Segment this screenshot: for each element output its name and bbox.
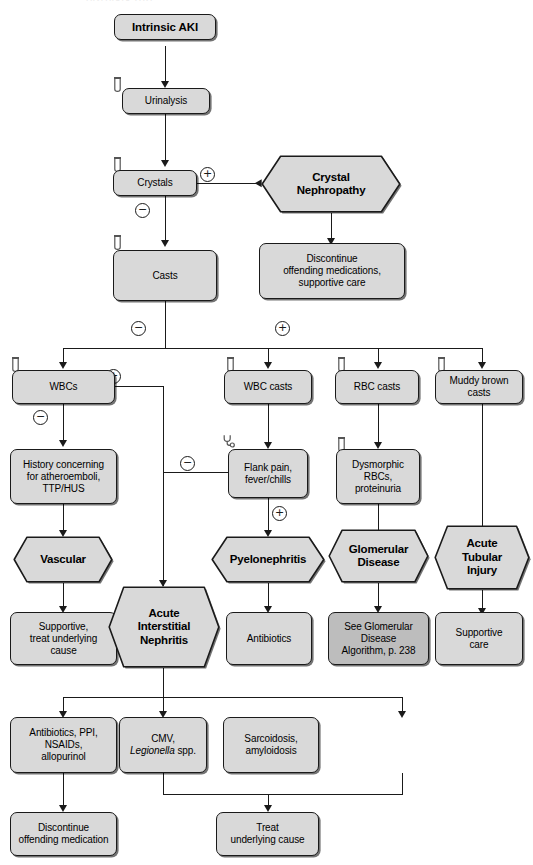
node-glomerular-disease[interactable]: Glomerular Disease (328, 529, 429, 583)
node-vascular[interactable]: Vascular (13, 536, 113, 583)
clipped-header-artifact: Intrinsic AKI (86, 0, 154, 3)
arrowhead-wbcs (59, 362, 67, 369)
edge-ain-down (163, 668, 164, 698)
node-supportive-care[interactable]: Supportive care (435, 612, 523, 665)
ain-infection-suffix: spp. (175, 745, 196, 756)
node-discontinue-offending-medication[interactable]: Discontinue offending medication (10, 812, 117, 856)
stethoscope-icon (222, 434, 236, 450)
node-rbc-casts[interactable]: RBC casts (335, 370, 419, 404)
arrowhead-muddy-brown-casts (478, 362, 486, 369)
sign-crystals-positive: + (200, 167, 215, 182)
node-pyelonephritis[interactable]: Pyelonephritis (211, 536, 325, 583)
node-acute-interstitial-nephritis[interactable]: Acute Interstitial Nephritis (108, 586, 220, 668)
arrowhead-crystals (161, 160, 169, 167)
edge-casts-bus (63, 348, 483, 349)
edge-urinalysis-to-crystals (165, 114, 166, 164)
sign-casts-positive: + (275, 321, 290, 336)
flowchart-canvas: Intrinsic AKI + − − + + − − + (0, 0, 533, 865)
arrowhead-casts (161, 240, 169, 247)
sign-wbcs-negative: − (33, 410, 48, 425)
node-see-glomerular-algorithm[interactable]: See Glomerular Disease Algorithm, p. 238 (328, 612, 429, 665)
edge-flank-negative (163, 472, 232, 473)
sign-flank-positive: + (272, 506, 287, 521)
edge-ain-bus (63, 697, 403, 698)
node-ain-drugs[interactable]: Antibiotics, PPI, NSAIDs, allopurinol (10, 717, 117, 773)
arrowhead-history (59, 440, 67, 447)
arrowhead-flank-pain (264, 442, 272, 449)
node-wbcs[interactable]: WBCs (12, 370, 115, 404)
test-tube-icon (112, 234, 123, 251)
edge-wbcs-to-history (63, 404, 64, 444)
edge-crystals-to-casts (165, 196, 166, 244)
arrowhead-urinalysis (161, 81, 169, 88)
node-supportive-treat-cause[interactable]: Supportive, treat underlying cause (10, 612, 117, 665)
edge-muddy-to-ati (482, 404, 483, 534)
node-flank-pain[interactable]: Flank pain, fever/chills (228, 449, 308, 498)
edge-systemic-down (402, 773, 403, 795)
node-crystals[interactable]: Crystals (113, 170, 197, 196)
node-muddy-brown-casts[interactable]: Muddy brown casts (435, 370, 523, 404)
edge-flank-to-pyelo (268, 498, 269, 534)
edge-wbcs-positive-down (163, 386, 164, 586)
edge-drugs-to-discontinue (63, 773, 64, 809)
node-ain-infectious[interactable]: CMV, Legionella spp. (119, 717, 207, 773)
arrowhead-rbc-casts (374, 362, 382, 369)
test-tube-icon (112, 76, 123, 93)
node-intrinsic-aki[interactable]: Intrinsic AKI (114, 14, 216, 40)
sign-flank-negative: − (180, 456, 195, 471)
node-history-atheroemboli[interactable]: History concerning for atheroemboli, TTP… (10, 449, 117, 504)
ain-infection-italic: Legionella (130, 745, 175, 756)
node-acute-tubular-injury[interactable]: Acute Tubular Injury (434, 525, 530, 590)
node-treat-underlying-cause[interactable]: Treat underlying cause (216, 812, 319, 856)
sign-casts-negative: − (131, 321, 146, 336)
edge-wbccasts-to-flank (268, 404, 269, 446)
edge-rbccasts-to-dysmorphic (378, 404, 379, 446)
node-crystal-nephropathy[interactable]: Crystal Nephropathy (261, 155, 401, 213)
edge-crystals-positive (196, 183, 257, 184)
node-dysmorphic-rbcs[interactable]: Dysmorphic RBCs, proteinuria (336, 449, 420, 504)
node-casts[interactable]: Casts (113, 250, 217, 301)
ain-infection-line1: CMV, (151, 733, 175, 744)
node-antibiotics[interactable]: Antibiotics (226, 612, 312, 665)
edge-casts-down (165, 301, 166, 349)
arrowhead-wbc-casts (264, 362, 272, 369)
edge-treat-bus (163, 794, 403, 795)
node-urinalysis[interactable]: Urinalysis (122, 88, 210, 114)
node-discontinue-offending-medications[interactable]: Discontinue offending medications, suppo… (259, 243, 405, 299)
arrowhead-dysmorphic (374, 442, 382, 449)
sign-crystals-negative: − (135, 203, 150, 218)
edge-infection-down (163, 773, 164, 795)
arrowhead-ain-systemic (398, 711, 406, 718)
edge-aki-to-urinalysis (165, 46, 166, 85)
node-wbc-casts[interactable]: WBC casts (224, 370, 312, 404)
node-ain-systemic[interactable]: Sarcoidosis, amyloidosis (223, 717, 319, 773)
arrowhead-treat-underlying (264, 805, 272, 812)
arrowhead-discontinue-offending (59, 805, 67, 812)
